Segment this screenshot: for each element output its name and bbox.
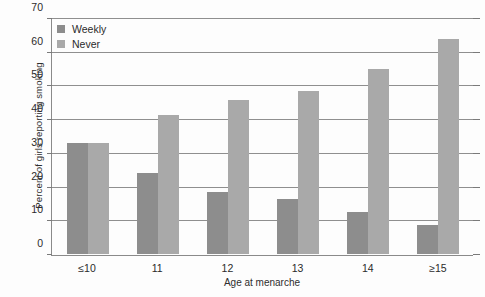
y-tick-label: 20 xyxy=(31,170,43,182)
y-tick-label: 60 xyxy=(31,35,43,47)
y-tick-label: 50 xyxy=(31,68,43,80)
bar-never-4 xyxy=(368,69,389,254)
y-tick-mark-right xyxy=(473,52,480,53)
legend-item-never: Never xyxy=(57,36,106,51)
bar-group xyxy=(123,19,193,254)
y-tick-label: 40 xyxy=(31,102,43,114)
y-tick-mark-right xyxy=(473,187,480,188)
x-axis-title: Age at menarche xyxy=(51,277,473,288)
bar-weekly-3 xyxy=(277,199,298,254)
bar-never-5 xyxy=(438,39,459,254)
y-tick-label: 70 xyxy=(31,1,43,13)
y-tick-mark-right xyxy=(473,254,480,255)
bar-chart-figure: Percent of girls reporting smoking 01020… xyxy=(0,0,485,297)
y-tick-label: 0 xyxy=(37,237,43,249)
legend-swatch-never-icon xyxy=(57,40,65,48)
bar-weekly-5 xyxy=(417,225,438,254)
y-tick-mark xyxy=(47,220,52,221)
y-tick-mark-right xyxy=(473,220,480,221)
y-tick-mark-right xyxy=(473,18,480,19)
y-tick-mark xyxy=(47,85,52,86)
x-tick-label: ≤10 xyxy=(78,262,95,274)
bar-never-3 xyxy=(298,91,319,254)
bar-group xyxy=(53,19,123,254)
bar-group xyxy=(263,19,333,254)
y-tick-mark-right xyxy=(473,119,480,120)
y-tick-mark xyxy=(47,187,52,188)
y-tick-mark xyxy=(47,153,52,154)
bar-group xyxy=(333,19,403,254)
y-tick-mark xyxy=(47,119,52,120)
y-tick-mark xyxy=(47,254,52,255)
x-tick-label: 13 xyxy=(292,262,304,274)
bar-never-1 xyxy=(158,115,179,254)
x-tick-label: 12 xyxy=(222,262,234,274)
y-tick-mark xyxy=(47,18,52,19)
chart-legend: Weekly Never xyxy=(57,21,106,51)
y-tick-mark-right xyxy=(473,153,480,154)
plot-area: 010203040506070 ≤1011121314≥15 xyxy=(51,19,473,256)
legend-label-weekly: Weekly xyxy=(72,23,106,35)
y-tick-label: 10 xyxy=(31,203,43,215)
legend-item-weekly: Weekly xyxy=(57,21,106,36)
bar-never-0 xyxy=(88,143,109,254)
legend-swatch-weekly-icon xyxy=(57,25,65,33)
bar-weekly-2 xyxy=(207,192,228,254)
bar-group xyxy=(403,19,473,254)
bar-weekly-0 xyxy=(67,143,88,254)
bar-group xyxy=(193,19,263,254)
legend-label-never: Never xyxy=(72,38,100,50)
y-tick-mark-right xyxy=(473,85,480,86)
y-tick-label: 30 xyxy=(31,136,43,148)
bars-layer xyxy=(53,19,473,254)
bar-weekly-4 xyxy=(347,212,368,254)
x-tick-label: ≥15 xyxy=(429,262,446,274)
bar-never-2 xyxy=(228,100,249,254)
x-tick-label: 11 xyxy=(152,262,163,274)
bar-weekly-1 xyxy=(137,173,158,254)
x-tick-label: 14 xyxy=(362,262,374,274)
y-tick-mark xyxy=(47,52,52,53)
